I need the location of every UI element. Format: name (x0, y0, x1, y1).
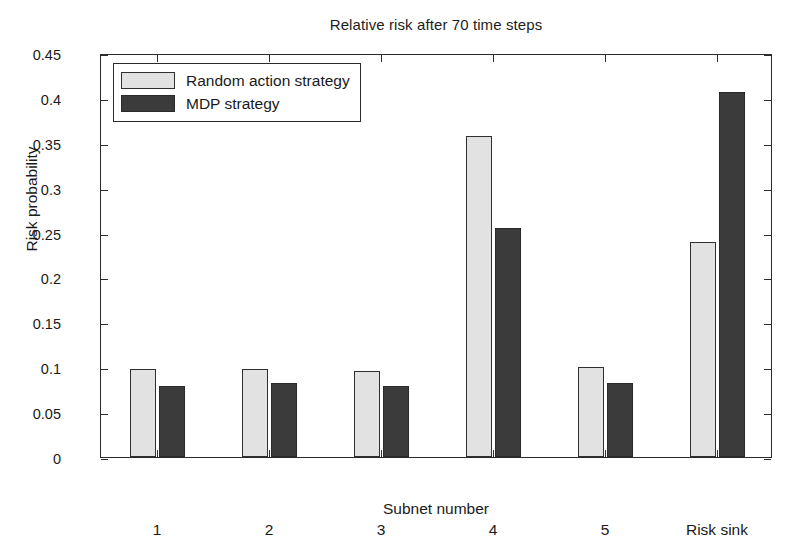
x-axis-title: Subnet number (100, 500, 772, 518)
plot-area: Random action strategyMDP strategy 00.05… (100, 54, 772, 458)
x-tick-mark-top (717, 55, 718, 62)
y-tick-mark (101, 414, 108, 415)
bar (242, 369, 268, 457)
bar (466, 136, 492, 457)
y-tick-label: 0.25 (1, 227, 61, 243)
bar (271, 383, 297, 458)
y-tick-label: 0.1 (1, 361, 61, 377)
y-tick-mark (101, 55, 108, 56)
bar (159, 386, 185, 457)
x-tick-label: Risk sink (647, 521, 787, 538)
y-tick-mark (101, 100, 108, 101)
x-tick-mark-top (157, 55, 158, 62)
y-tick-label: 0.35 (1, 137, 61, 153)
bar (690, 242, 716, 457)
y-tick-mark (101, 459, 108, 460)
bar-chart-figure: Relative risk after 70 time steps Risk p… (0, 0, 803, 538)
y-tick-mark-right (764, 235, 771, 236)
y-tick-label: 0.4 (1, 92, 61, 108)
bar (719, 92, 745, 457)
y-tick-mark (101, 369, 108, 370)
y-tick-label: 0 (1, 451, 61, 467)
legend-swatch (121, 72, 175, 89)
y-tick-mark (101, 279, 108, 280)
y-tick-mark-right (764, 459, 771, 460)
y-tick-mark-right (764, 190, 771, 191)
legend-item: MDP strategy (121, 92, 350, 115)
chart-legend: Random action strategyMDP strategy (113, 63, 361, 122)
bar (578, 367, 604, 457)
y-tick-mark (101, 145, 108, 146)
y-tick-mark-right (764, 145, 771, 146)
y-tick-mark-right (764, 100, 771, 101)
y-tick-mark-right (764, 414, 771, 415)
y-tick-mark (101, 190, 108, 191)
y-tick-mark (101, 235, 108, 236)
legend-label: MDP strategy (186, 96, 280, 112)
legend-swatch (121, 95, 175, 112)
bar (130, 369, 156, 457)
y-tick-mark-right (764, 55, 771, 56)
x-tick-mark-top (269, 55, 270, 62)
x-tick-mark-top (605, 55, 606, 62)
bar (607, 383, 633, 457)
y-tick-label: 0.45 (1, 47, 61, 63)
y-tick-mark-right (764, 369, 771, 370)
bar (354, 371, 380, 457)
x-tick-mark-top (493, 55, 494, 62)
bar (495, 228, 521, 457)
y-tick-mark-right (764, 279, 771, 280)
legend-label: Random action strategy (186, 73, 350, 89)
chart-title: Relative risk after 70 time steps (100, 16, 772, 33)
x-tick-mark-top (381, 55, 382, 62)
y-tick-label: 0.15 (1, 316, 61, 332)
y-tick-mark (101, 324, 108, 325)
legend-item: Random action strategy (121, 69, 350, 92)
bar (383, 386, 409, 457)
y-tick-label: 0.05 (1, 406, 61, 422)
y-tick-mark-right (764, 324, 771, 325)
y-tick-label: 0.3 (1, 182, 61, 198)
y-tick-label: 0.2 (1, 271, 61, 287)
